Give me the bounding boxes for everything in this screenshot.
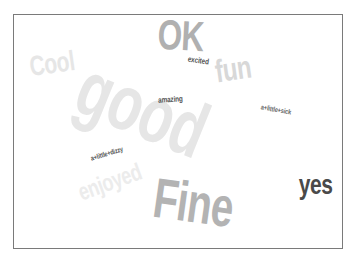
word-a-little-dizzy: a+little+dizzy: [90, 145, 124, 161]
word-excited: excited: [187, 56, 209, 67]
word-cloud-frame: good Cool enjoyed OK fun excited amazing…: [13, 14, 343, 249]
word-yes: yes: [299, 171, 333, 199]
word-enjoyed: enjoyed: [75, 160, 145, 205]
word-good: good: [66, 48, 218, 170]
word-a-little-sick: a+little+sick: [260, 103, 291, 115]
word-cool: Cool: [28, 47, 76, 81]
word-ok: OK: [157, 14, 205, 58]
word-amazing: amazing: [158, 95, 183, 104]
word-fun: fun: [213, 51, 253, 88]
word-fine: Fine: [150, 170, 237, 237]
word-cloud-canvas: good Cool enjoyed OK fun excited amazing…: [0, 0, 352, 262]
